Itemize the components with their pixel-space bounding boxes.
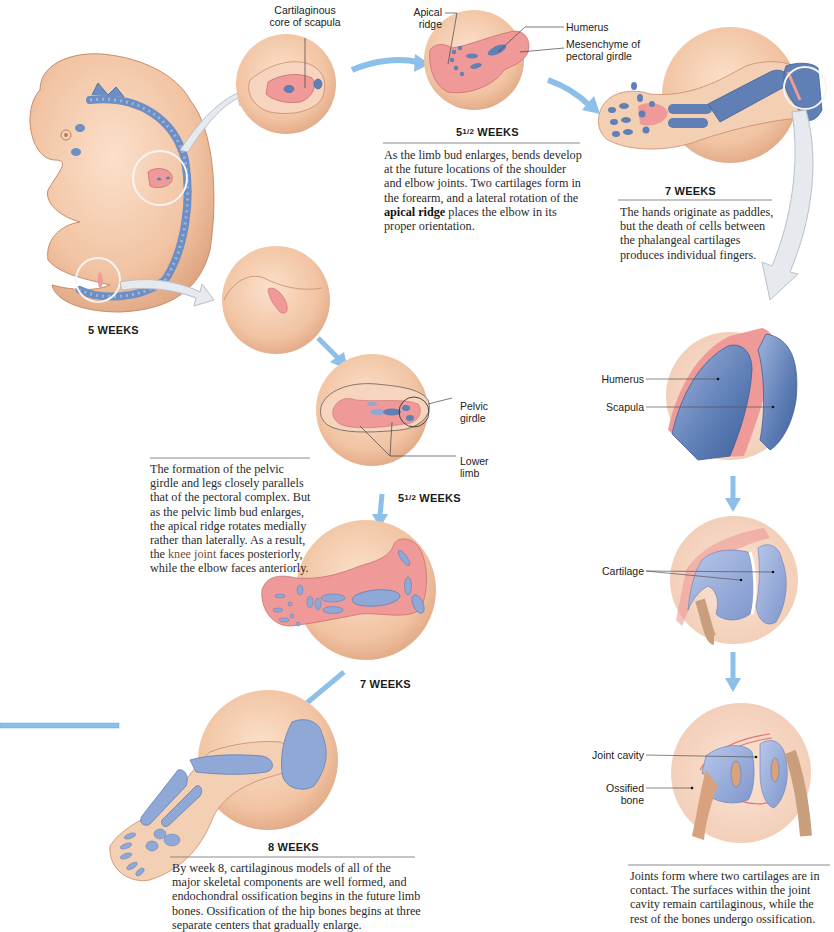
label-cartilage: Cartilage: [580, 565, 644, 577]
label-scapula: Scapula: [580, 401, 644, 413]
label-mesenchyme-of-pectoral-girdle: Mesenchyme of pectoral girdle: [566, 38, 640, 62]
label-line: limb: [460, 467, 489, 479]
label-line: ridge: [396, 18, 442, 30]
label-line: bone: [580, 794, 644, 806]
stage-title-frac: 1/2: [404, 493, 416, 502]
label-humerus-joint: Humerus: [580, 373, 644, 385]
label-cartilaginous-core-of-scapula: Cartilaginous core of scapula: [260, 4, 350, 28]
caption-highlight-term: knee joint: [168, 547, 216, 561]
label-line: Pelvic: [460, 400, 488, 412]
joint-stage-3: [646, 703, 811, 843]
stage-title-upper-7-weeks: 7 WEEKS: [665, 185, 716, 197]
joint-stage-2: [646, 516, 798, 644]
stage-title-lower-7-weeks: 7 WEEKS: [360, 678, 411, 690]
label-line: core of scapula: [260, 16, 350, 28]
label-humerus-top: Humerus: [566, 21, 609, 33]
embryo-5-weeks: [30, 54, 214, 312]
upper-limb-bud: [236, 34, 336, 134]
label-lower-limb: Lower limb: [460, 455, 489, 479]
arrow-to-55w-upper: [352, 60, 418, 70]
caption-lower-8-weeks: By week 8, cartilaginous models of all o…: [172, 861, 422, 932]
label-pelvic-girdle: Pelvic girdle: [460, 400, 488, 424]
label-line: Cartilaginous: [260, 4, 350, 16]
label-line: Lower: [460, 455, 489, 467]
label-line: Apical: [396, 6, 442, 18]
stage-title-lower-5-5-weeks: 51/2 WEEKS: [398, 492, 461, 504]
stage-title-5-weeks: 5 WEEKS: [88, 324, 139, 336]
label-line: Ossified: [580, 782, 644, 794]
arrow-to-7w-upper: [548, 80, 590, 106]
lower-limb-5-5-weeks: [316, 354, 456, 466]
stage-title-frac: 1/2: [462, 127, 474, 136]
caption-upper-7-weeks: The hands originate as paddles, but the …: [620, 205, 780, 262]
label-joint-cavity: Joint cavity: [560, 749, 644, 761]
stage-title-upper-5-5-weeks: 51/2 WEEKS: [456, 126, 519, 138]
stage-title-lower-8-weeks: 8 WEEKS: [268, 841, 319, 853]
label-ossified-bone: Ossified bone: [580, 782, 644, 806]
caption-upper-5-5-weeks: As the limb bud enlarges, bends develop …: [384, 148, 584, 233]
label-line: Mesenchyme of: [566, 38, 640, 50]
stage-title-rest: WEEKS: [419, 492, 460, 504]
label-apical-ridge: Apical ridge: [396, 6, 442, 30]
blue-divider-bar: [0, 723, 119, 728]
caption-joints: Joints form where two cartilages are in …: [630, 869, 834, 926]
caption-lower-5-5-weeks: The formation of the pelvic girdle and l…: [150, 462, 312, 576]
label-line: pectoral girdle: [566, 50, 640, 62]
caption-text: As the limb bud enlarges, bends develop …: [384, 148, 582, 205]
stage-title-rest: WEEKS: [477, 126, 518, 138]
lower-limb-bud: [222, 246, 330, 354]
joint-stage-1: [646, 328, 797, 460]
caption-bold-term: apical ridge: [384, 205, 445, 219]
label-line: girdle: [460, 412, 488, 424]
